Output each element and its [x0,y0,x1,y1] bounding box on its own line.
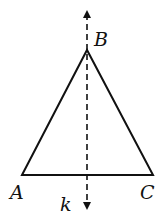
label-k: k [60,193,72,215]
triangle-diagram: B A C k [0,0,163,215]
label-a: A [8,181,24,203]
label-c: C [140,181,155,203]
label-b: B [93,28,108,50]
